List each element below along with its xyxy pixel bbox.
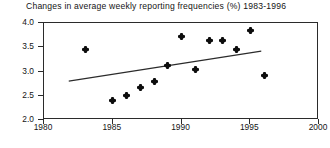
data-point: [152, 79, 157, 84]
data-point: [234, 47, 239, 52]
chart-container: Changes in average weekly reporting freq…: [0, 0, 330, 148]
y-tick-label: 3.5: [10, 41, 34, 51]
data-point: [179, 34, 184, 39]
y-tick-label: 4.0: [10, 17, 34, 27]
data-point: [193, 67, 198, 72]
plot-area: [43, 22, 318, 119]
y-tick-label: 2.5: [10, 90, 34, 100]
data-point: [83, 47, 88, 52]
chart-title: Changes in average weekly reporting freq…: [26, 1, 286, 11]
data-point: [165, 63, 170, 68]
data-point: [262, 73, 267, 78]
x-tick-label: 2000: [298, 122, 330, 132]
y-tick-label: 3.0: [10, 66, 34, 76]
data-point: [248, 28, 253, 33]
